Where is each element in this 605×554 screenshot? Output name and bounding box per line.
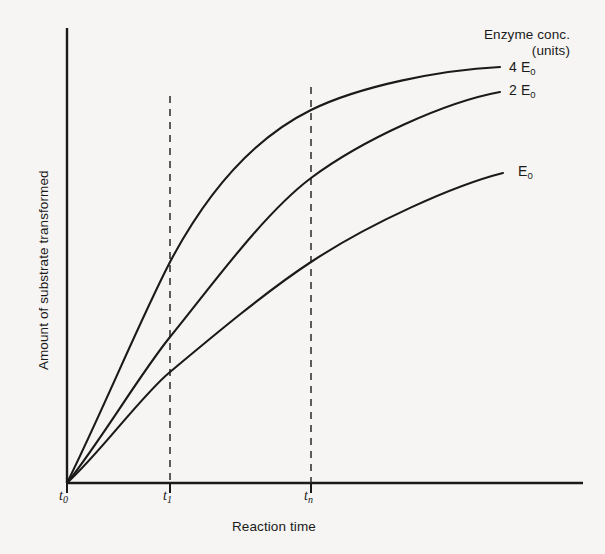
series-label-4e0-sub: 0	[530, 66, 535, 77]
series-label-2e0: 2 E0	[509, 82, 536, 99]
series-label-2e0-prefix: 2 E	[509, 82, 530, 98]
series-label-1e0-sub: 0	[527, 170, 532, 181]
series-label-4e0-prefix: 4 E	[509, 59, 530, 75]
legend-title-line1: Enzyme conc.	[430, 27, 570, 43]
x-axis-label: Reaction time	[232, 519, 316, 535]
series-label-2e0-sub: 0	[530, 89, 535, 100]
enzyme-kinetics-figure: Enzyme conc. (units) 4 E0 2 E0 E0 Amount…	[0, 0, 605, 554]
legend-title-line2: (units)	[430, 43, 570, 59]
curve-1e0	[67, 173, 503, 483]
x-tick-label-t0: t0	[59, 487, 68, 504]
legend-title: Enzyme conc. (units)	[430, 27, 570, 60]
series-label-1e0: E0	[518, 163, 533, 180]
x-tick-label-t1-sub: 1	[167, 494, 172, 505]
curve-4e0	[67, 67, 500, 483]
x-tick-label-tn-sub: n	[308, 494, 313, 505]
curve-2e0	[67, 92, 500, 483]
x-tick-label-tn: tn	[304, 487, 313, 504]
x-tick-label-t0-sub: 0	[63, 494, 68, 505]
x-tick-label-t1: t1	[163, 487, 172, 504]
series-label-4e0: 4 E0	[509, 59, 536, 76]
y-axis-label: Amount of substrate transformed	[36, 140, 52, 400]
